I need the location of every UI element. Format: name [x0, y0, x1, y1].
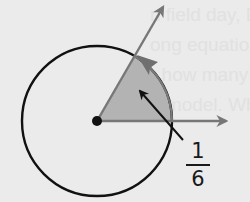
fraction-numerator: 1 — [186, 140, 210, 162]
shaded-sector — [97, 56, 172, 121]
circle-diagram — [0, 0, 250, 202]
fraction-label: 1 6 — [186, 140, 210, 190]
fraction-bar — [186, 164, 210, 166]
center-point — [92, 116, 102, 126]
fraction-denominator: 6 — [186, 168, 210, 190]
figure-canvas: n field day, Danny ong equations C r how… — [0, 0, 250, 202]
